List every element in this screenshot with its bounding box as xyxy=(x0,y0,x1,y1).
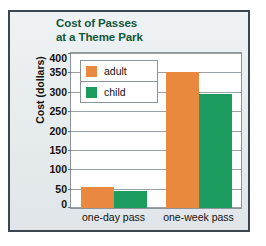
y-tick-label: 50 xyxy=(55,183,67,195)
bar-adult-0 xyxy=(81,187,114,208)
y-tick-label: 250 xyxy=(49,105,67,117)
chart-figure: Cost of Passes at a Theme Park Cost (dol… xyxy=(8,10,250,232)
gridline xyxy=(71,53,241,54)
x-category-label: one-week pass xyxy=(163,211,234,223)
legend-swatch-child-icon xyxy=(86,87,97,98)
legend-swatch-adult-icon xyxy=(86,66,97,77)
y-tick-mark xyxy=(68,169,71,170)
x-category-label: one-day pass xyxy=(82,211,145,223)
legend-label-child: child xyxy=(104,86,126,98)
chart-title: Cost of Passes at a Theme Park xyxy=(56,17,236,44)
y-tick-mark xyxy=(68,111,71,112)
chart-legend: adult child xyxy=(80,60,158,103)
y-tick-label: 400 xyxy=(49,52,67,64)
legend-label-adult: adult xyxy=(104,65,127,77)
plot-area: 400350300250200150100500 one-day passone… xyxy=(70,52,242,209)
y-tick-label: 0 xyxy=(61,198,67,210)
legend-item-adult: adult xyxy=(81,61,157,81)
y-tick-label: 300 xyxy=(49,86,67,98)
legend-item-child: child xyxy=(81,81,157,102)
chart-title-line-2: at a Theme Park xyxy=(56,31,236,45)
y-tick-label: 350 xyxy=(49,66,67,78)
bar-child-0 xyxy=(114,191,147,208)
y-tick-mark xyxy=(68,53,71,54)
y-tick-mark xyxy=(68,207,71,208)
y-tick-mark xyxy=(68,92,71,93)
y-tick-label: 150 xyxy=(49,144,67,156)
chart-title-line-1: Cost of Passes xyxy=(56,17,137,29)
bar-child-1 xyxy=(199,94,232,208)
y-tick-mark xyxy=(68,131,71,132)
y-tick-label: 100 xyxy=(49,163,67,175)
y-tick-label: 200 xyxy=(49,125,67,137)
y-tick-mark xyxy=(68,150,71,151)
bar-adult-1 xyxy=(166,72,199,208)
y-tick-mark xyxy=(68,189,71,190)
y-axis-title: Cost (dollars) xyxy=(34,20,46,160)
y-tick-mark xyxy=(68,72,71,73)
